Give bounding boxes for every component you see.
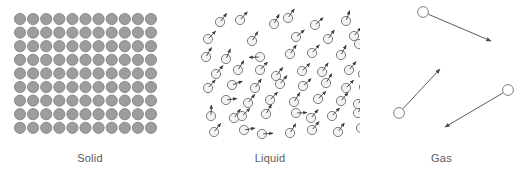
solid-particle xyxy=(80,41,91,52)
liquid-particle xyxy=(297,63,310,75)
liquid-particle xyxy=(353,95,360,109)
solid-particle xyxy=(27,95,38,106)
gas-particle xyxy=(394,69,440,118)
solid-particle xyxy=(106,13,117,24)
liquid-particle xyxy=(235,12,247,25)
liquid-particle xyxy=(298,79,311,91)
liquid-particle-circle xyxy=(261,109,270,118)
solid-particle xyxy=(145,109,156,120)
solid-particle xyxy=(27,109,38,120)
gas-particle-circle xyxy=(394,108,405,119)
solid-particle xyxy=(14,68,25,79)
solid-particle xyxy=(67,68,78,79)
liquid-particle xyxy=(250,79,261,93)
liquid-particle xyxy=(243,94,254,107)
solid-particle xyxy=(80,81,91,92)
solid-particle xyxy=(93,95,104,106)
gas-particle xyxy=(418,7,491,41)
liquid-particle-circle xyxy=(221,54,230,63)
solid-particle xyxy=(119,95,130,106)
solid-particle xyxy=(106,41,117,52)
gas-motion-arrow xyxy=(403,69,440,109)
solid-particle xyxy=(132,122,143,133)
liquid-particle xyxy=(271,67,282,80)
solid-particle xyxy=(93,122,104,133)
liquid-particle xyxy=(333,123,344,137)
liquid-particle xyxy=(341,80,353,93)
solid-particle xyxy=(27,122,38,133)
liquid-particle-cluster xyxy=(180,0,360,148)
solid-particle xyxy=(41,27,52,38)
solid-particle xyxy=(67,54,78,65)
solid-particle xyxy=(80,122,91,133)
gas-motion-arrow xyxy=(445,93,503,127)
solid-particle xyxy=(14,122,25,133)
solid-particle xyxy=(119,41,130,52)
states-of-matter-figure: Solid Liquid Gas xyxy=(0,0,523,180)
solid-particle xyxy=(54,95,65,106)
solid-particle xyxy=(41,41,52,52)
solid-particle xyxy=(145,81,156,92)
solid-particle xyxy=(132,27,143,38)
solid-particle xyxy=(80,109,91,120)
panel-liquid: Liquid xyxy=(180,0,360,180)
solid-particle xyxy=(14,81,25,92)
liquid-particle xyxy=(291,30,304,42)
solid-particle xyxy=(54,13,65,24)
liquid-particle-circle xyxy=(243,98,252,107)
liquid-particle xyxy=(285,45,296,59)
gas-particle-circle xyxy=(503,85,514,96)
solid-particle xyxy=(41,68,52,79)
solid-particle xyxy=(119,81,130,92)
gas-particle-scatter xyxy=(360,0,523,148)
liquid-particle-circle xyxy=(239,125,248,134)
liquid-particle xyxy=(239,125,254,134)
solid-particle xyxy=(67,13,78,24)
solid-particle xyxy=(93,68,104,79)
solid-particle xyxy=(27,54,38,65)
solid-particle xyxy=(145,95,156,106)
solid-particle xyxy=(106,122,117,133)
solid-particle xyxy=(93,13,104,24)
liquid-particle-circle xyxy=(333,127,342,136)
solid-particle xyxy=(54,81,65,92)
liquid-particle xyxy=(291,108,307,117)
liquid-particle xyxy=(323,30,334,44)
solid-particle xyxy=(119,68,130,79)
solid-particle xyxy=(14,27,25,38)
liquid-particle xyxy=(341,11,350,26)
solid-particle xyxy=(54,122,65,133)
liquid-particle xyxy=(307,122,319,135)
liquid-particle xyxy=(255,62,267,75)
solid-particle xyxy=(145,41,156,52)
solid-particle xyxy=(54,27,65,38)
liquid-particle xyxy=(313,91,326,103)
solid-particle xyxy=(54,68,65,79)
solid-particle xyxy=(93,54,104,65)
liquid-particle xyxy=(285,124,295,138)
panel-gas: Gas xyxy=(360,0,523,180)
panel-label-gas: Gas xyxy=(360,152,523,164)
solid-particle xyxy=(54,109,65,120)
liquid-particle xyxy=(269,14,279,28)
liquid-particle xyxy=(261,104,271,118)
liquid-particle xyxy=(349,28,360,41)
solid-particle xyxy=(14,54,25,65)
liquid-particle-circle xyxy=(250,83,259,92)
solid-particle xyxy=(145,27,156,38)
liquid-particle xyxy=(209,123,220,136)
solid-particle xyxy=(41,81,52,92)
solid-particle xyxy=(27,27,38,38)
liquid-particle-circle xyxy=(247,36,256,45)
solid-particle xyxy=(106,109,117,120)
solid-particle xyxy=(41,13,52,24)
solid-particle xyxy=(27,41,38,52)
solid-particle xyxy=(93,109,104,120)
liquid-particle xyxy=(249,52,265,61)
solid-particle xyxy=(67,95,78,106)
liquid-particle xyxy=(265,92,277,105)
solid-particle xyxy=(145,122,156,133)
solid-particle xyxy=(41,122,52,133)
panel-label-solid: Solid xyxy=(0,152,180,164)
liquid-particle xyxy=(211,66,223,79)
